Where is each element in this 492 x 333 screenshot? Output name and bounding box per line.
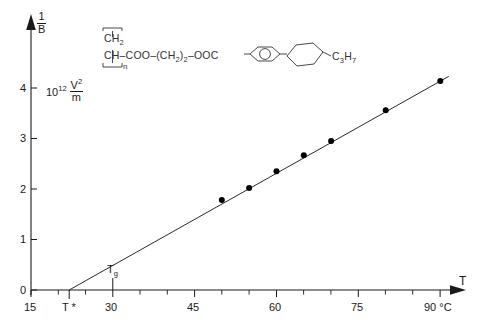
fit-line [69, 76, 449, 290]
y-tick-label: 2 [20, 183, 26, 195]
benzene-ring [244, 47, 287, 61]
x-axis-title: T [459, 275, 466, 287]
data-point [246, 185, 252, 191]
data-point [437, 78, 443, 84]
y-unit-exponent: 12 [58, 84, 66, 93]
annotation-t-g-base: T [107, 263, 114, 275]
chart-figure: 1 B 1012 V2 m 4 3 2 1 0 15 30 45 60 75 9… [0, 0, 492, 333]
data-point [274, 168, 280, 174]
x-tick-label: 30 [105, 301, 117, 313]
x-tick-label: 60 [269, 301, 281, 313]
x-tick-label: 75 [351, 301, 363, 313]
y-axis-title-numerator: 1 [37, 11, 46, 24]
x-axis-major-ticks [31, 290, 440, 297]
data-point [383, 107, 389, 113]
y-axis-title: 1 B [37, 11, 46, 35]
y-unit-fraction: V2 m [70, 78, 84, 104]
x-tick-label: 15 [24, 301, 36, 313]
y-tick-label: 0 [20, 284, 26, 296]
annotation-t-g-sub: g [114, 269, 118, 278]
data-point [301, 152, 307, 158]
structure-ch2-label: CH2 [104, 32, 124, 47]
chart-canvas [0, 0, 492, 333]
y-axis-unit: 1012 V2 m [46, 78, 83, 104]
structure-main-chain: CH–COO–(CH2)2–OOC [104, 49, 218, 64]
x-tick-label: 45 [187, 301, 199, 313]
x-axis [31, 285, 466, 295]
x-tick-label: 90 °C [424, 301, 452, 313]
annotation-t-star: T * [62, 302, 76, 313]
y-axis-ticks [31, 88, 37, 290]
y-tick-label: 1 [20, 233, 26, 245]
x-axis-minor-ticks [58, 290, 412, 295]
y-axis [26, 14, 36, 295]
y-axis-arrowhead [26, 14, 36, 30]
y-unit-denominator: m [70, 92, 84, 104]
data-points [219, 78, 443, 203]
annotation-t-g: Tg [107, 264, 118, 278]
data-point [328, 138, 334, 144]
y-tick-label: 4 [20, 82, 26, 94]
y-unit-prefix: 1012 [46, 84, 67, 98]
cyclohexane-ring [287, 43, 331, 66]
data-point [219, 197, 225, 203]
y-unit-numerator: V2 [70, 78, 84, 92]
y-tick-label: 3 [20, 132, 26, 144]
structure-repeat-index: n [123, 62, 128, 71]
structure-terminal-group: C3H7 [332, 50, 356, 65]
y-axis-title-denominator: B [37, 24, 46, 36]
